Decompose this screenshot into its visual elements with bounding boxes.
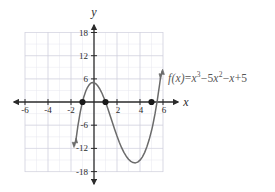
x-axis-label: x: [182, 95, 189, 109]
y-tick-label--18: -18: [76, 167, 88, 177]
y-tick-label--12: -12: [76, 143, 88, 153]
x-tick-label-6: 6: [162, 105, 167, 115]
y-axis-label: y: [90, 5, 97, 19]
x-tick-label--6: -6: [21, 105, 29, 115]
x-tick-label-2: 2: [116, 105, 121, 115]
root-point-5[interactable]: [148, 99, 154, 105]
y-tick-label-6: 6: [84, 74, 89, 84]
root-point--1[interactable]: [79, 99, 85, 105]
equation-term4: 5: [241, 72, 247, 84]
y-tick-label-18: 18: [79, 28, 89, 38]
y-tick-label-12: 12: [79, 51, 88, 61]
function-graph: -6 -4 -2 2 4 6 18 12 6 -6 -12 -18 x y: [0, 0, 275, 192]
graph-background: [0, 0, 275, 192]
root-point-1[interactable]: [102, 99, 108, 105]
x-tick-label--4: -4: [44, 105, 52, 115]
function-equation-label: f(x)=x3−5x2−x+5: [168, 70, 247, 84]
x-tick-label-4: 4: [139, 105, 144, 115]
y-tick-label--6: -6: [81, 120, 89, 130]
x-tick-label--2: -2: [67, 105, 75, 115]
equation-fx: f(x): [168, 72, 185, 84]
